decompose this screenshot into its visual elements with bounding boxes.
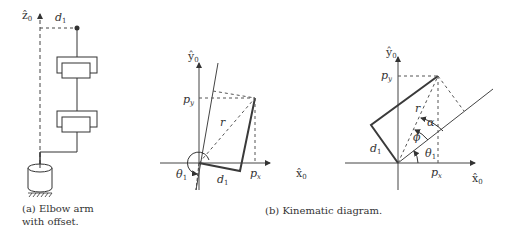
y0-label: ŷ0 xyxy=(187,50,199,64)
theta1-label: θ1 xyxy=(425,147,436,161)
ground-hatch-icon xyxy=(28,193,52,197)
phi-label: ϕ xyxy=(413,131,421,144)
caption-a-line1: (a) Elbow arm xyxy=(22,203,94,214)
x0-label: x̂0 xyxy=(296,167,307,181)
d1-label: d1 xyxy=(217,173,229,187)
r-label: r xyxy=(220,116,226,129)
px-label: px xyxy=(431,166,442,180)
arm-link xyxy=(199,98,255,171)
px-label: px xyxy=(250,167,261,181)
panel-b-right-diagram: ŷ0 x̂0 py px r α ϕ θ1 d1 xyxy=(345,46,493,190)
py-label: py xyxy=(183,93,195,107)
upper-joint-inner xyxy=(62,63,90,78)
base-cylinder xyxy=(28,152,52,192)
kinematic-figure: ẑ0 d1 (a) Elbow arm with offset. ŷ0 x̂0 … xyxy=(0,0,514,231)
alpha-label: α xyxy=(427,116,435,129)
panel-a-elbow-arm: ẑ0 d1 (a) Elbow arm with offset. xyxy=(22,9,97,227)
caption-b: (b) Kinematic diagram. xyxy=(265,205,382,216)
d1-label: d1 xyxy=(55,11,67,25)
py-label: py xyxy=(381,69,393,83)
x0-label: x̂0 xyxy=(472,172,483,186)
lower-joint-inner xyxy=(62,117,90,132)
r-label: r xyxy=(415,102,421,115)
perp-dashed xyxy=(213,91,255,98)
caption-a-line2: with offset. xyxy=(22,216,79,227)
theta1-label: θ1 xyxy=(176,168,187,182)
y0-label: ŷ0 xyxy=(385,46,397,60)
perp-dashed xyxy=(438,76,464,111)
panel-b-left-diagram: ŷ0 x̂0 py px r θ1 d1 xyxy=(160,50,307,190)
d1-label: d1 xyxy=(370,142,382,156)
z0-label: ẑ0 xyxy=(22,9,32,23)
theta1-arc xyxy=(414,151,418,163)
r-dashed xyxy=(199,98,255,163)
rotated-axis xyxy=(398,89,493,163)
